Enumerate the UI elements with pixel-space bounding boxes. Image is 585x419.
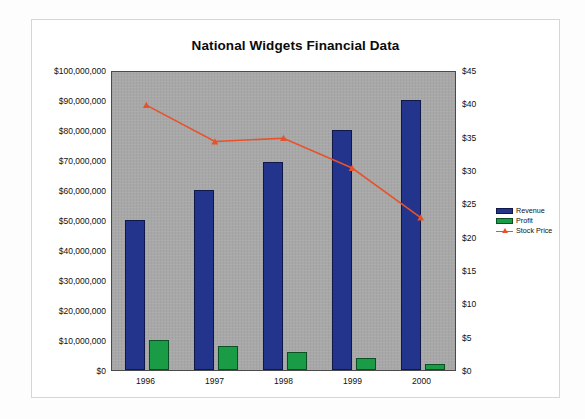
legend-item[interactable]: Profit (496, 216, 558, 226)
y-axis-left: $0$10,000,000$20,000,000$30,000,000$40,0… (32, 71, 106, 371)
y-left-tick-label: $0 (97, 366, 106, 376)
legend-item-label: Revenue (516, 206, 545, 216)
legend-swatch-icon (496, 218, 513, 224)
y-right-tick-label: $5 (462, 333, 471, 343)
y-left-tick-label: $50,000,000 (59, 216, 106, 226)
y-left-tick-label: $90,000,000 (59, 96, 106, 106)
x-tick-label: 1997 (205, 376, 224, 386)
legend-item-label: Stock Price (516, 226, 552, 236)
legend-swatch-icon (496, 228, 513, 235)
y-right-tick-label: $20 (462, 233, 476, 243)
legend-item[interactable]: Stock Price (496, 226, 558, 236)
y-right-tick-label: $35 (462, 133, 476, 143)
y-left-tick-label: $60,000,000 (59, 186, 106, 196)
y-left-tick-label: $40,000,000 (59, 246, 106, 256)
chart-legend: RevenueProfitStock Price (496, 206, 558, 236)
plot-area (111, 71, 456, 371)
x-tick-label: 1998 (274, 376, 293, 386)
legend-swatch-icon (496, 208, 513, 214)
y-left-tick-label: $70,000,000 (59, 156, 106, 166)
y-left-tick-label: $30,000,000 (59, 276, 106, 286)
y-left-tick-label: $10,000,000 (59, 336, 106, 346)
x-tick-label: 1996 (136, 376, 155, 386)
chart-title: National Widgets Financial Data (32, 38, 559, 53)
y-right-tick-label: $30 (462, 166, 476, 176)
y-right-tick-label: $15 (462, 266, 476, 276)
y-left-tick-label: $100,000,000 (54, 66, 106, 76)
legend-item[interactable]: Revenue (496, 206, 558, 216)
stock-price-line (112, 72, 455, 370)
stock-price-polyline (146, 105, 420, 218)
stock-price-marker (143, 102, 150, 108)
y-right-tick-label: $45 (462, 66, 476, 76)
x-tick-label: 2000 (412, 376, 431, 386)
chart-card: National Widgets Financial Data $0$10,00… (31, 19, 560, 398)
y-right-tick-label: $0 (462, 366, 471, 376)
y-right-tick-label: $10 (462, 299, 476, 309)
legend-item-label: Profit (516, 216, 533, 226)
y-left-tick-label: $80,000,000 (59, 126, 106, 136)
x-tick-label: 1999 (343, 376, 362, 386)
y-left-tick-label: $20,000,000 (59, 306, 106, 316)
page-canvas: National Widgets Financial Data $0$10,00… (0, 0, 585, 419)
y-right-tick-label: $25 (462, 199, 476, 209)
y-right-tick-label: $40 (462, 99, 476, 109)
